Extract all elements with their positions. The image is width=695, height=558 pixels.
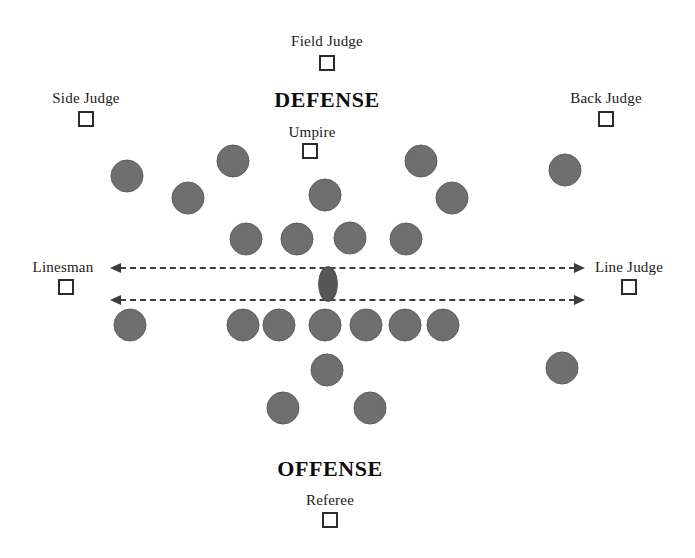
defense-line-2 xyxy=(281,223,314,256)
offense-back-right xyxy=(354,392,387,425)
defense-right-corner xyxy=(549,154,582,187)
upper-scrimmage-line-left-arrow-icon xyxy=(110,263,121,273)
defense-left-safety xyxy=(172,182,205,215)
offense-center xyxy=(309,309,342,342)
defense-right-safety xyxy=(436,182,469,215)
lower-scrimmage-line-right-arrow-icon xyxy=(574,295,585,305)
upper-scrimmage-line xyxy=(120,267,575,269)
side-judge-label: Side Judge xyxy=(52,90,119,107)
offense-line-3 xyxy=(350,309,383,342)
defense-right-end xyxy=(405,145,438,178)
defense-line-3 xyxy=(334,222,367,255)
offense-split-end-left xyxy=(114,309,147,342)
offense-line-1 xyxy=(227,309,260,342)
referee-label: Referee xyxy=(306,492,354,509)
offense-line-2 xyxy=(263,309,296,342)
defense-title: DEFENSE xyxy=(274,87,380,113)
linesman-label: Linesman xyxy=(33,259,94,276)
lower-scrimmage-line-left-arrow-icon xyxy=(110,295,121,305)
referee-marker xyxy=(322,512,338,528)
football-icon xyxy=(318,266,338,302)
defense-line-4 xyxy=(390,223,423,256)
line-judge-marker xyxy=(621,279,637,295)
back-judge-marker xyxy=(598,111,614,127)
defense-left-corner xyxy=(111,160,144,193)
back-judge-label: Back Judge xyxy=(570,90,642,107)
linesman-marker xyxy=(58,279,74,295)
side-judge-marker xyxy=(78,111,94,127)
offense-quarterback xyxy=(311,354,344,387)
offense-title: OFFENSE xyxy=(277,456,383,482)
offense-back-left xyxy=(267,392,300,425)
defense-line-1 xyxy=(230,223,263,256)
umpire-marker xyxy=(302,143,318,159)
field-judge-label: Field Judge xyxy=(291,33,363,50)
upper-scrimmage-line-right-arrow-icon xyxy=(574,263,585,273)
defense-middle-back xyxy=(309,179,342,212)
football-formation-diagram: Field JudgeSide JudgeBack JudgeUmpireLin… xyxy=(0,0,695,558)
defense-left-end xyxy=(217,145,250,178)
offense-flanker-right xyxy=(546,352,579,385)
lower-scrimmage-line xyxy=(120,299,575,301)
umpire-label: Umpire xyxy=(288,124,335,141)
offense-line-5 xyxy=(427,309,460,342)
line-judge-label: Line Judge xyxy=(595,259,663,276)
offense-line-4 xyxy=(389,309,422,342)
field-judge-marker xyxy=(319,55,335,71)
